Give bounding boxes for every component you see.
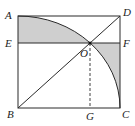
label-e: E [4, 37, 12, 49]
label-c: C [122, 108, 130, 120]
label-a: A [4, 9, 12, 21]
label-d: D [122, 6, 131, 18]
shaded-region-right [90, 43, 120, 108]
geometry-diagram: A D E F O B G C [0, 0, 135, 126]
label-o: O [80, 47, 88, 59]
label-b: B [7, 108, 14, 120]
label-g: G [86, 110, 94, 122]
point-o-dot [89, 42, 92, 45]
label-f: F [122, 37, 130, 49]
shaded-region-top-left [18, 16, 90, 43]
